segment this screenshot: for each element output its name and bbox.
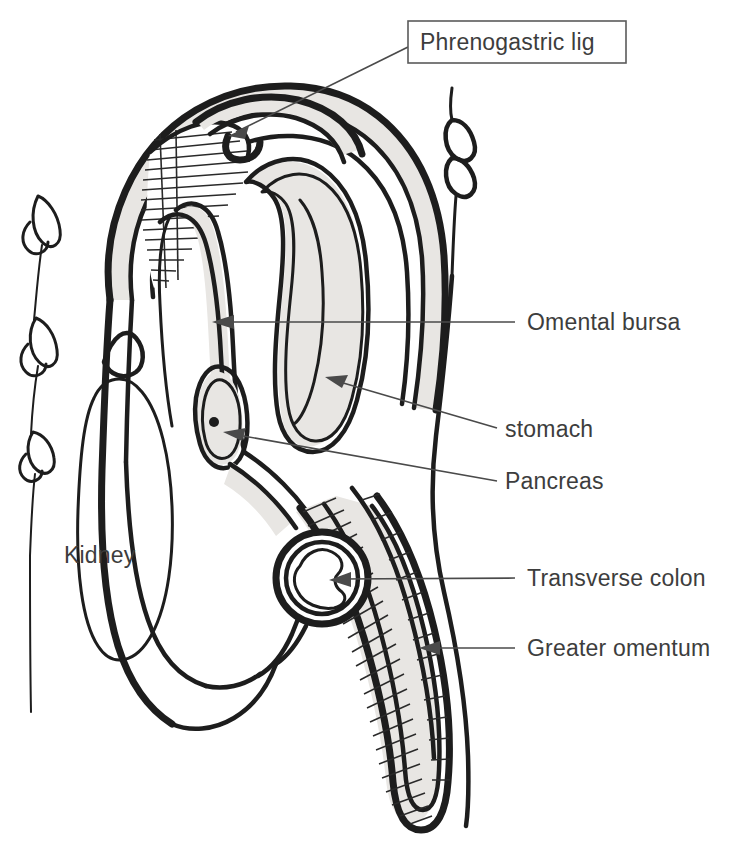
- label-transverse-colon: Transverse colon: [527, 565, 706, 591]
- transverse-colon: [276, 532, 368, 624]
- splenic-vessel-dot: [209, 417, 219, 427]
- label-pancreas: Pancreas: [505, 468, 604, 494]
- pancreas: [195, 367, 247, 469]
- leader-pancreas: [223, 428, 497, 481]
- label-stomach: stomach: [505, 416, 593, 442]
- label-omental-bursa: Omental bursa: [527, 309, 680, 335]
- vertebral-spinous-processes-left: [20, 196, 61, 712]
- anterior-abdominal-wall-right: [446, 88, 475, 276]
- stomach: [246, 159, 368, 452]
- anatomy-diagram: Phrenogastric lig Omental bursa stomach …: [0, 0, 733, 851]
- label-phrenogastric-lig: Phrenogastric lig: [420, 29, 595, 55]
- label-kidney: Kidney: [64, 542, 136, 568]
- leader-greater-omentum: [419, 641, 515, 655]
- label-greater-omentum: Greater omentum: [527, 635, 710, 661]
